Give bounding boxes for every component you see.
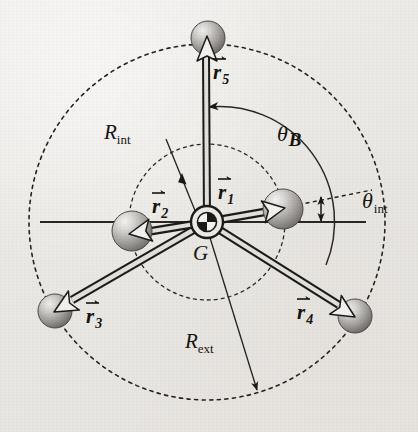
- vector-arrow-hat-icon: [85, 297, 100, 306]
- vector-label-r4: r4: [297, 302, 312, 323]
- r-int-leader-arrowhead: [178, 173, 186, 185]
- vector-arrow-hat-icon: [212, 53, 227, 62]
- vector-label-r2: r2: [152, 196, 167, 217]
- vector-label-r1: r1: [218, 182, 233, 203]
- vector-arrow-hat-icon: [151, 187, 166, 196]
- label-theta-int: θint: [362, 190, 387, 212]
- vector-arrow-hat-icon: [296, 293, 311, 302]
- vector-shaft-r5: [206, 55, 207, 222]
- center-of-mass-symbol: [191, 206, 223, 238]
- figure-canvas: r5 r1 r2 r3 r4: [0, 0, 418, 432]
- label-r-int: Rint: [104, 122, 131, 143]
- label-center-of-mass-g: G: [193, 243, 208, 264]
- label-theta-b: θB: [277, 123, 301, 145]
- vector-label-r5: r5: [213, 62, 228, 83]
- vector-diagram-svg: [0, 0, 418, 432]
- label-r-ext: Rext: [185, 331, 214, 352]
- vector-label-r3: r3: [86, 306, 101, 327]
- vector-arrow-hat-icon: [217, 173, 232, 182]
